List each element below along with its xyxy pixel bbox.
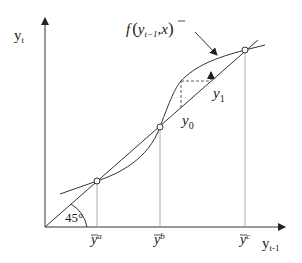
angle-label: 45°	[65, 210, 83, 225]
45-degree-line	[45, 40, 258, 227]
y0-label: y0	[180, 112, 194, 131]
equilibrium-a	[94, 178, 100, 184]
f-curve	[60, 45, 265, 194]
function-label: f(yt−1,x)	[126, 19, 174, 39]
y-bar-b-label: yb	[152, 231, 165, 247]
equilibrium-b	[157, 124, 163, 130]
y-bar-a-label: ya	[89, 231, 102, 247]
y-axis-label: yt	[14, 27, 25, 45]
steady-state-diagram: yt yt-1 f(yt−1,x) 45° y0 y1 ya yb yc	[0, 0, 302, 263]
equilibrium-c	[242, 47, 248, 53]
label-pointer	[195, 32, 217, 55]
x-axis-label: yt-1	[262, 235, 280, 253]
y1-label: y1	[211, 85, 225, 104]
y-bar-c-label: yc	[238, 231, 250, 247]
